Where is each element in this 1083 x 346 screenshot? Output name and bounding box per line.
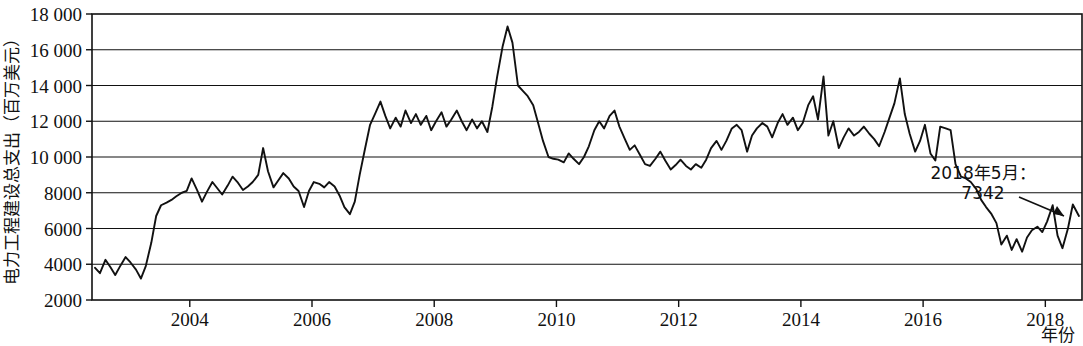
line-chart-svg: 18 00016 00014 00012 00010 0008000600040… bbox=[0, 0, 1083, 346]
x-tick-label: 2010 bbox=[537, 309, 575, 330]
y-tick-label: 8000 bbox=[44, 183, 82, 204]
y-tick-label: 4000 bbox=[44, 254, 82, 275]
x-tick-label: 2004 bbox=[171, 309, 210, 330]
y-tick-label: 2000 bbox=[44, 290, 82, 311]
y-tick-label: 14 000 bbox=[30, 76, 82, 97]
y-tick-label: 10 000 bbox=[30, 147, 82, 168]
y-tick-label: 12 000 bbox=[30, 111, 82, 132]
x-axis-title: 年份 bbox=[1041, 325, 1075, 345]
x-tick-label: 2006 bbox=[293, 309, 331, 330]
y-axis-title: 电力工程建设总支出（百万美元） bbox=[2, 30, 22, 285]
x-tick-label: 2008 bbox=[415, 309, 453, 330]
callout-label-line1: 2018年5月： bbox=[930, 163, 1035, 183]
x-tick-label: 2014 bbox=[782, 309, 821, 330]
x-axis-ticks: 20042006200820102012201420162018 bbox=[171, 300, 1065, 330]
x-tick-label: 2012 bbox=[660, 309, 698, 330]
y-axis-ticks: 18 00016 00014 00012 00010 0008000600040… bbox=[30, 4, 92, 311]
y-tick-label: 18 000 bbox=[30, 4, 82, 25]
chart-container: 18 00016 00014 00012 00010 0008000600040… bbox=[0, 0, 1083, 346]
x-tick-label: 2016 bbox=[904, 309, 942, 330]
y-tick-label: 16 000 bbox=[30, 40, 82, 61]
callout-label-line2: 7342 bbox=[961, 183, 1004, 203]
y-tick-label: 6000 bbox=[44, 219, 82, 240]
